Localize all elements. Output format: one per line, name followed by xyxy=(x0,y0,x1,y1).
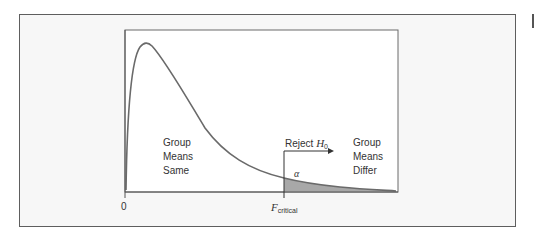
reject-h0-label: Reject H0 xyxy=(285,137,328,150)
f-distribution-chart: 0 Fcritical Reject H0 α Group Means Same… xyxy=(0,0,534,238)
left-region-line3: Same xyxy=(163,165,190,176)
tick-zero: 0 xyxy=(121,201,127,212)
left-region-line2: Means xyxy=(163,151,193,162)
right-region-line3: Differ xyxy=(353,165,377,176)
left-region-line1: Group xyxy=(163,137,191,148)
right-region-line2: Means xyxy=(353,151,383,162)
tick-f-critical: Fcritical xyxy=(270,201,298,214)
right-region-line1: Group xyxy=(353,137,381,148)
f-critical-sub: critical xyxy=(278,207,298,214)
alpha-label: α xyxy=(294,168,300,179)
